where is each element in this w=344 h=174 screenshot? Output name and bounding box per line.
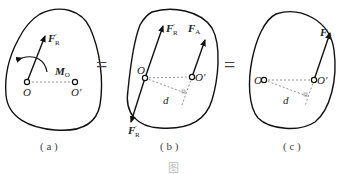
figure-caption-partial: 图 <box>168 162 179 174</box>
label-o-c: O <box>254 74 262 86</box>
caption-c: ( c ) <box>283 140 301 153</box>
dashed-line-distance-b <box>145 78 185 93</box>
label-mo: MO <box>54 65 70 79</box>
dashed-line-o-o-prime-b <box>145 77 192 78</box>
point-o-marker-c <box>261 77 266 82</box>
label-fa: FA <box>187 22 200 36</box>
label-distance-c: d <box>283 94 289 106</box>
label-o-prime-b: O′ <box>195 71 206 83</box>
dashed-line-force-extension-b <box>182 77 192 105</box>
label-o: O <box>23 86 31 98</box>
label-distance-b: d <box>163 94 169 106</box>
equals-sign-2: = <box>224 54 235 76</box>
label-o-b: O <box>137 64 145 76</box>
caption-a: ( a ) <box>40 140 58 153</box>
label-o-prime-c: O′ <box>317 74 328 86</box>
panel-a: F′R MO O O′ ( a ) <box>6 9 102 153</box>
point-o-marker-b <box>142 75 147 80</box>
force-arrow-fr-prime-bottom <box>131 78 145 122</box>
point-o-marker <box>24 79 29 84</box>
force-arrow-fr-prime-top <box>145 26 163 78</box>
label-fr-prime: F′R <box>47 32 60 47</box>
panel-c: FR O O′ d ( c ) <box>250 12 336 153</box>
panel-b: F′R FA F′R O O′ d ( b ) <box>127 9 218 153</box>
force-arrow-fr <box>314 33 330 80</box>
label-fr-prime-top: F′R <box>165 22 178 37</box>
label-fr-prime-bottom: F′R <box>127 124 140 139</box>
equals-sign-1: = <box>96 54 107 76</box>
label-fr: FR <box>319 26 332 40</box>
point-o-prime-marker <box>72 79 77 84</box>
label-o-prime: O′ <box>71 86 82 98</box>
point-o-prime-marker-c <box>311 77 316 82</box>
force-arrow-fr-prime <box>27 36 45 82</box>
body-outline-a <box>6 9 102 130</box>
caption-b: ( b ) <box>160 140 179 153</box>
point-o-prime-marker-b <box>189 74 194 79</box>
force-equivalence-diagram: F′R MO O O′ ( a ) = F′R FA F′R O O′ d ( … <box>0 0 344 174</box>
